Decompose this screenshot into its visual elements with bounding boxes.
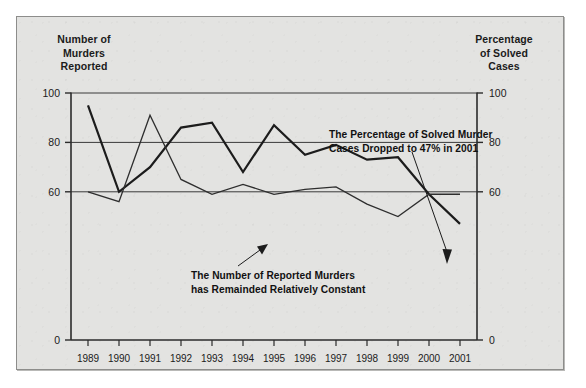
annotation-solved-line-2: Cases Dropped to 47% in 2001 xyxy=(329,142,492,156)
leader-arrow-solved xyxy=(443,249,453,264)
x-tick-label-1992: 1992 xyxy=(170,353,193,364)
annotation-solved-line-1: The Percentage of Solved Murder xyxy=(329,128,492,142)
plot-area: 0608010006080100198919901991199219931994… xyxy=(0,0,586,388)
y-tick-label-left-80: 80 xyxy=(48,136,60,148)
x-tick-label-1997: 1997 xyxy=(325,353,348,364)
x-tick-label-2001: 2001 xyxy=(449,353,472,364)
y-tick-label-right-0: 0 xyxy=(489,334,495,346)
x-tick-label-1991: 1991 xyxy=(139,353,162,364)
leader-line-reported xyxy=(238,250,260,266)
annotation-reported-line-1: The Number of Reported Murders xyxy=(191,269,365,283)
leader-arrow-reported xyxy=(257,244,268,255)
x-tick-label-1994: 1994 xyxy=(232,353,255,364)
y-tick-label-left-60: 60 xyxy=(48,186,60,198)
x-tick-label-1998: 1998 xyxy=(356,353,379,364)
y-tick-label-left-100: 100 xyxy=(42,87,60,99)
x-tick-label-2000: 2000 xyxy=(418,353,441,364)
y-tick-label-right-60: 60 xyxy=(489,186,501,198)
x-tick-label-1996: 1996 xyxy=(294,353,317,364)
x-tick-label-1999: 1999 xyxy=(387,353,410,364)
annotation-solved-cases: The Percentage of Solved Murder Cases Dr… xyxy=(329,128,492,155)
y-tick-label-right-100: 100 xyxy=(489,87,507,99)
annotation-reported-line-2: has Remainded Relatively Constant xyxy=(191,283,365,297)
annotation-reported-murders: The Number of Reported Murders has Remai… xyxy=(191,269,365,296)
x-tick-label-1995: 1995 xyxy=(263,353,286,364)
x-tick-label-1989: 1989 xyxy=(77,353,100,364)
x-tick-label-1990: 1990 xyxy=(108,353,131,364)
series-line-solved-cases xyxy=(88,105,460,224)
chart-figure: Number of Murders Reported Percentage of… xyxy=(0,0,586,388)
y-tick-label-left-0: 0 xyxy=(54,334,60,346)
x-tick-label-1993: 1993 xyxy=(201,353,224,364)
annotation-leader-reported xyxy=(238,244,268,266)
annotation-leader-solved xyxy=(412,152,452,264)
